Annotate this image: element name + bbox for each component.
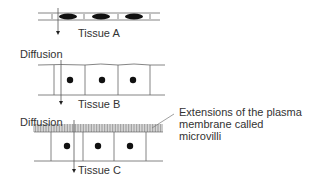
diffusion-label-1: Diffusion xyxy=(20,48,63,60)
tissue-b-nuclei xyxy=(67,77,136,83)
microvilli-annotation-line3: microvilli xyxy=(179,130,221,142)
tissue-b-label: Tissue B xyxy=(78,98,120,110)
tissue-a-nuclei xyxy=(59,14,143,20)
diffusion-arrow-b xyxy=(59,60,63,105)
annotation-leader-line xyxy=(152,114,174,128)
microvilli-annotation-line2: membrane called xyxy=(179,118,263,130)
diffusion-arrow-a xyxy=(56,8,60,35)
microvilli-annotation-line1: Extensions of the plasma xyxy=(179,106,302,118)
diffusion-label-2: Diffusion xyxy=(20,116,63,128)
tissue-a-label: Tissue A xyxy=(78,27,120,39)
tissue-c-label: Tissue C xyxy=(78,164,121,176)
epithelium-diagram xyxy=(0,0,319,183)
